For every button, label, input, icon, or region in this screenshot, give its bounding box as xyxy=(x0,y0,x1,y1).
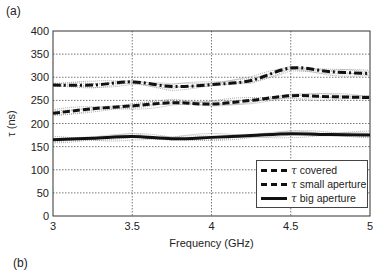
x-tick-label: 5 xyxy=(367,220,373,232)
y-tick-label: 350 xyxy=(31,48,49,60)
dashed-line-icon xyxy=(261,183,287,186)
legend-label: covered xyxy=(300,164,337,176)
series-line xyxy=(53,134,370,140)
y-tick-label: 250 xyxy=(31,94,49,106)
x-tick-label: 4.5 xyxy=(283,220,298,232)
chart-plot: 05010015020025030035040033.544.55Frequen… xyxy=(0,0,382,273)
tau-symbol: τ xyxy=(291,178,297,190)
solid-line-icon xyxy=(261,197,287,200)
tau-symbol: τ xyxy=(291,192,297,204)
dash-dot-line-icon xyxy=(261,169,287,172)
x-tick-label: 4 xyxy=(208,220,214,232)
legend-item-covered: τ covered xyxy=(257,163,367,177)
x-tick-label: 3 xyxy=(50,220,56,232)
y-tick-label: 0 xyxy=(43,210,49,222)
chart-legend: τ covered τ small aperture τ big apertur… xyxy=(256,160,368,208)
legend-item-big-aperture: τ big aperture xyxy=(257,191,367,205)
legend-label: big aperture xyxy=(300,192,356,204)
y-tick-label: 400 xyxy=(31,25,49,37)
y-tick-label: 100 xyxy=(31,164,49,176)
x-tick-label: 3.5 xyxy=(125,220,140,232)
y-tick-label: 300 xyxy=(31,71,49,83)
y-tick-label: 50 xyxy=(37,187,49,199)
x-axis-label: Frequency (GHz) xyxy=(169,237,253,249)
y-tick-label: 150 xyxy=(31,141,49,153)
y-tick-label: 200 xyxy=(31,118,49,130)
legend-item-small-aperture: τ small aperture xyxy=(257,177,367,191)
legend-label: small aperture xyxy=(300,178,367,190)
y-axis-label: τ (ns) xyxy=(5,110,17,136)
tau-symbol: τ xyxy=(291,164,297,176)
